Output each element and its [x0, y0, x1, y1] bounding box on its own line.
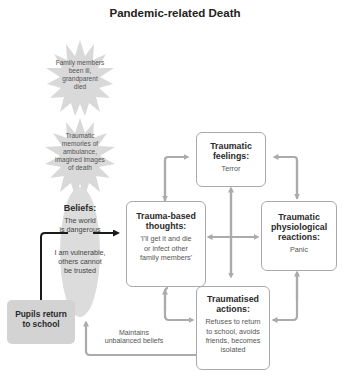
burst-text-2: Traumatic memories of ambulance, imagine… [44, 132, 116, 172]
pupils-return-node: Pupils return to school [7, 300, 75, 344]
beliefs-node: Beliefs: The world is dangerous I am vul… [44, 203, 116, 275]
traumatised-actions-box: Traumatised actions: Refuses to return t… [196, 286, 270, 370]
traumatic-feelings-box: Traumatic feelings: Terror [196, 132, 266, 187]
burst-text-1: Family members been ill, grandparent die… [48, 59, 112, 91]
beliefs-heading: Beliefs: [44, 203, 116, 214]
maintains-beliefs-label: Maintains unbalanced beliefs [88, 329, 180, 346]
trauma-based-thoughts-box: Trauma-based thoughts: 'I'll get it and … [126, 201, 206, 287]
traumatic-physiological-reactions-box: Traumatic physiological reactions: Panic [261, 201, 337, 271]
